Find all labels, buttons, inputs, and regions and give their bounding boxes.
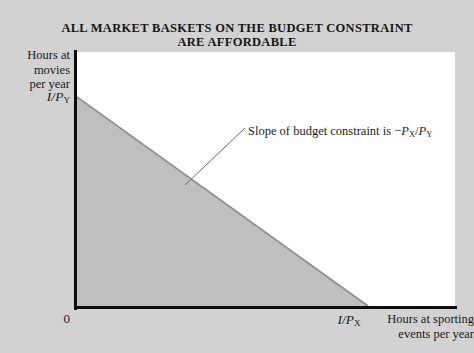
annotation-leader-line [185, 128, 245, 185]
x-axis-label: Hours at sporting events per year [381, 312, 474, 341]
origin-label: 0 [46, 311, 70, 327]
slope-annotation-text: Slope of budget constraint is [248, 124, 391, 138]
x-axis-line [74, 306, 457, 309]
y-intercept-label: I/PY [0, 89, 70, 105]
figure-title-line-1: ALL MARKET BASKETS ON THE BUDGET CONSTRA… [61, 21, 412, 35]
x-intercept-denominator: P [346, 312, 354, 327]
plot-area [77, 52, 455, 308]
x-intercept-label: I/PX [325, 312, 373, 328]
slope-price-y: P [419, 124, 427, 138]
slope-annotation: Slope of budget constraint is −PX/PY [248, 124, 432, 139]
y-intercept-subscript: Y [63, 95, 70, 105]
y-axis-label-line-2: movies [34, 63, 70, 77]
x-intercept-subscript: X [354, 318, 361, 328]
x-axis-label-line-2: events per year [398, 327, 474, 341]
slope-price-y-subscript: Y [426, 129, 432, 139]
budget-constraint-graphic [77, 52, 455, 308]
figure-title: ALL MARKET BASKETS ON THE BUDGET CONSTRA… [0, 21, 474, 49]
x-axis-label-line-1: Hours at sporting [387, 312, 474, 326]
y-axis-line [74, 50, 77, 310]
y-axis-label: Hours at movies per year [0, 48, 70, 92]
figure-container: ALL MARKET BASKETS ON THE BUDGET CONSTRA… [0, 0, 474, 353]
y-axis-label-line-1: Hours at [27, 48, 70, 62]
slope-price-x: P [401, 124, 409, 138]
figure-title-line-2: ARE AFFORDABLE [0, 35, 474, 49]
